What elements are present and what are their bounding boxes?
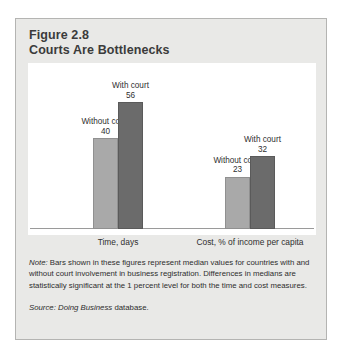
bar-without-court-1 [93, 138, 118, 229]
category-label: Cost, % of income per capita [160, 237, 340, 247]
category-axis-labels: Time, daysCost, % of income per capita [28, 237, 316, 251]
figure-source: Source: Doing Business database. [29, 302, 317, 313]
bar-with-court-1 [118, 102, 143, 229]
figure-panel: Figure 2.8 Courts Are Bottlenecks Withou… [15, 18, 327, 340]
bar-without-court-2 [225, 177, 250, 229]
note-text: Bars shown in these figures represent me… [29, 258, 309, 290]
bar-annotation: With court32 [228, 135, 298, 154]
series-name-label: With court [228, 135, 298, 145]
bar-with-court-2 [250, 156, 275, 229]
figure-number: Figure 2.8 [29, 28, 309, 43]
chart-plot-area: Without court40With court56Without court… [28, 63, 316, 235]
source-tail: database. [112, 303, 148, 312]
series-name-label: With court [96, 81, 166, 91]
source-work: Doing Business [56, 303, 112, 312]
source-lead: Source: [29, 303, 56, 312]
bar-annotation: With court56 [96, 81, 166, 100]
page-title: Courts Are Bottlenecks [29, 43, 309, 58]
note-lead: Note: [29, 258, 48, 267]
figure-title-block: Figure 2.8 Courts Are Bottlenecks [29, 28, 309, 58]
figure-footer: Note: Bars shown in these figures repres… [29, 257, 317, 313]
figure-note: Note: Bars shown in these figures repres… [29, 257, 317, 291]
grouped-bar-chart: Without court40With court56Without court… [28, 63, 316, 235]
series-value-label: 32 [228, 145, 298, 155]
series-value-label: 56 [96, 91, 166, 101]
